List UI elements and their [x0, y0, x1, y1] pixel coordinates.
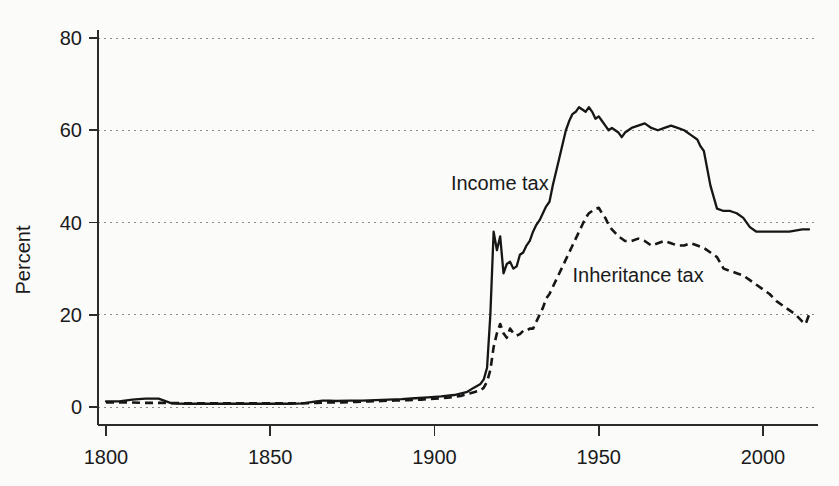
y-tick-label-0: 0: [71, 396, 82, 418]
x-axis-group: 18001850190019502000: [84, 425, 818, 468]
y-axis-group: 020406080: [60, 27, 98, 425]
x-tick-label-1900: 1900: [412, 446, 457, 468]
x-axis-ticks: [106, 425, 763, 436]
series-line-income-tax: [106, 107, 809, 404]
y-axis-tick-labels: 020406080: [60, 27, 82, 418]
x-tick-label-1950: 1950: [577, 446, 622, 468]
y-tick-label-20: 20: [60, 304, 82, 326]
tax-rates-line-chart: 020406080 18001850190019502000 Percent I…: [0, 0, 839, 486]
x-tick-label-1850: 1850: [248, 446, 293, 468]
x-tick-label-1800: 1800: [84, 446, 129, 468]
y-tick-label-60: 60: [60, 119, 82, 141]
gridlines-group: [98, 38, 818, 407]
chart-container: 020406080 18001850190019502000 Percent I…: [0, 0, 839, 486]
y-axis-title: Percent: [12, 225, 34, 294]
series-line-inheritance-tax: [106, 208, 809, 404]
annotation-inheritance-tax: Inheritance tax: [572, 264, 703, 286]
annotation-income-tax: Income tax: [451, 172, 549, 194]
y-axis-ticks: [89, 38, 98, 407]
data-series-group: [106, 107, 809, 404]
y-tick-label-40: 40: [60, 212, 82, 234]
y-tick-label-80: 80: [60, 27, 82, 49]
x-tick-label-2000: 2000: [741, 446, 786, 468]
x-axis-tick-labels: 18001850190019502000: [84, 446, 786, 468]
series-annotations-group: Income taxInheritance tax: [451, 172, 704, 286]
